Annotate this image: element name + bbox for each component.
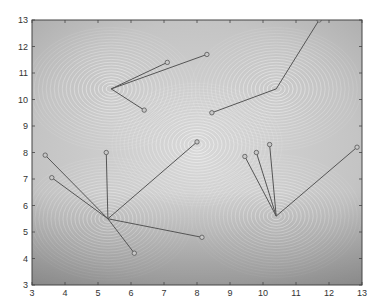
x-tick-label: 3	[29, 288, 34, 298]
x-tick-label: 4	[62, 288, 67, 298]
y-tick-label: 11	[19, 68, 28, 78]
endpoint-marker	[267, 142, 271, 146]
x-tick-label: 5	[95, 288, 100, 298]
x-tick-label: 6	[128, 288, 133, 298]
y-tick-label: 7	[23, 174, 28, 184]
y-tick-label: 9	[23, 121, 28, 131]
x-tick-label: 9	[227, 288, 232, 298]
y-tick-label: 3	[23, 280, 28, 290]
y-tick-label: 13	[18, 15, 28, 25]
endpoint-marker	[205, 52, 209, 56]
x-tick-label: 7	[161, 288, 166, 298]
x-tick-label: 10	[258, 288, 268, 298]
y-tick-label: 4	[23, 254, 28, 264]
endpoint-marker	[210, 111, 214, 115]
endpoint-marker	[104, 150, 108, 154]
plot-area	[23, 18, 362, 285]
endpoint-marker	[165, 60, 169, 64]
y-tick-label: 8	[23, 148, 28, 158]
endpoint-marker	[132, 251, 136, 255]
endpoint-marker	[243, 154, 247, 158]
endpoint-marker	[355, 145, 359, 149]
endpoint-marker	[200, 235, 204, 239]
x-tick-label: 8	[194, 288, 199, 298]
y-tick-label: 12	[18, 42, 28, 52]
x-tick-label: 13	[357, 288, 367, 298]
contour-plot: 345678910111213 345678910111213	[0, 0, 382, 308]
y-tick-label: 10	[18, 95, 28, 105]
endpoint-marker	[195, 140, 199, 144]
y-tick-label: 6	[23, 201, 28, 211]
endpoint-marker	[142, 108, 146, 112]
x-tick-label: 12	[324, 288, 334, 298]
y-tick-label: 5	[23, 227, 28, 237]
endpoint-marker	[50, 175, 54, 179]
endpoint-marker	[254, 150, 258, 154]
x-tick-label: 11	[291, 288, 300, 298]
endpoint-marker	[43, 153, 47, 157]
